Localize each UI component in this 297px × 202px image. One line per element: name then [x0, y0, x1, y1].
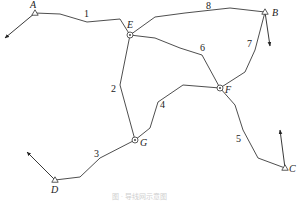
route-1-line [35, 13, 130, 35]
route-7-line [220, 12, 265, 88]
point-D-label: D [50, 184, 59, 195]
route-5-line [220, 88, 285, 168]
route-7-label: 7 [247, 38, 252, 49]
survey-points [32, 9, 288, 182]
point-labels: ABCDEFG [29, 0, 296, 195]
center-dot-icon [219, 87, 221, 89]
route-2-line [120, 35, 135, 140]
center-dot-icon [129, 34, 131, 36]
route-4-label: 4 [160, 99, 165, 110]
point-A-label: A [29, 0, 37, 10]
center-dot-icon [134, 139, 136, 141]
point-C-label: C [289, 163, 296, 174]
point-F-label: F [224, 84, 232, 95]
route-6-line [130, 35, 220, 88]
triangle-point-icon [32, 10, 38, 15]
arrow-icon [5, 13, 35, 38]
route-3-line [55, 140, 135, 180]
point-G-label: G [140, 137, 147, 148]
route-6-label: 6 [200, 42, 205, 53]
route-2-label: 2 [111, 83, 116, 94]
arrow-icon [27, 152, 55, 180]
route-5-label: 5 [236, 133, 241, 144]
route-1-label: 1 [84, 8, 89, 19]
route-3-label: 3 [94, 148, 99, 159]
arrow-icon [280, 130, 285, 168]
arrow-icon [265, 12, 270, 46]
route-lines [35, 8, 285, 180]
route-8-label: 8 [206, 0, 211, 11]
route-number-labels: 12345678 [84, 0, 252, 159]
route-8-line [130, 8, 265, 35]
point-B-label: B [272, 7, 278, 18]
traverse-network-diagram: 12345678 ABCDEFG 图 · 导线网示意图 [0, 0, 297, 202]
point-E-label: E [126, 19, 133, 30]
route-4-line [135, 85, 220, 140]
figure-caption: 图 · 导线网示意图 [112, 192, 167, 201]
